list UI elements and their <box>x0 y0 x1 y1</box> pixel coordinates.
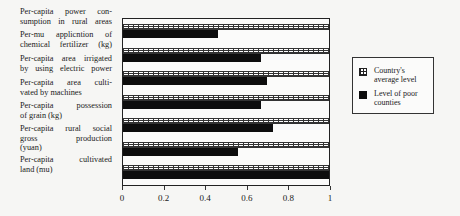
x-tick-label: 0.6 <box>235 193 259 203</box>
x-tick <box>330 186 331 190</box>
x-tick <box>288 186 289 190</box>
black-swatch-icon <box>359 91 367 99</box>
category-label: Per-capita area irrigatedby using electr… <box>20 54 112 73</box>
category-label: Per-capita possessionof grain (kg) <box>20 101 112 120</box>
bar-poor-counties <box>123 148 238 156</box>
bar-poor-counties <box>123 54 261 62</box>
x-tick <box>164 186 165 190</box>
legend: Country's average level Level of poor co… <box>352 57 434 114</box>
x-tick <box>122 186 123 190</box>
category-label: Per-capita area culti-vated by machines <box>20 78 112 97</box>
x-tick-label: 0 <box>110 193 134 203</box>
plot-area <box>122 18 330 186</box>
legend-label: Level of poor counties <box>374 89 426 107</box>
category-label: Per-capita power con-sumption in rural a… <box>20 7 112 26</box>
x-tick <box>205 186 206 190</box>
category-label: Per-mu applicntion ofchemical fertilizer… <box>20 30 112 49</box>
x-tick-label: 0.8 <box>276 193 300 203</box>
category-label: Per-capita rural socialgross production(… <box>20 124 112 153</box>
bar-poor-counties <box>123 77 267 85</box>
grid-pattern-swatch-icon <box>359 68 367 76</box>
bar-poor-counties <box>123 124 273 132</box>
legend-item-poor-counties: Level of poor counties <box>359 89 426 107</box>
x-tick <box>247 186 248 190</box>
bar-poor-counties <box>123 30 218 38</box>
legend-item-country-average: Country's average level <box>359 66 426 84</box>
x-tick-label: 1 <box>318 193 342 203</box>
x-tick-label: 0.2 <box>152 193 176 203</box>
legend-label: Country's average level <box>374 66 426 84</box>
category-label: Per-capita cultivatedland (mu) <box>20 155 112 174</box>
x-tick-label: 0.4 <box>193 193 217 203</box>
bar-poor-counties <box>123 101 261 109</box>
bar-poor-counties <box>123 171 329 179</box>
